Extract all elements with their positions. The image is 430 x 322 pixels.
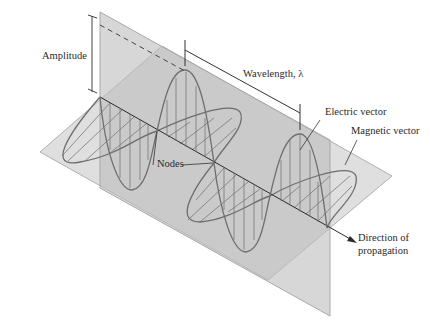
- direction-label-line1: Direction of: [358, 232, 409, 244]
- wavelength-label: Wavelength, λ: [243, 68, 303, 80]
- magnetic-vector-label: Magnetic vector: [351, 125, 420, 137]
- electric-plane: [100, 12, 330, 316]
- propagation-arrowhead: [347, 236, 357, 243]
- electric-vector-label: Electric vector: [325, 106, 387, 118]
- nodes-label: Nodes: [157, 158, 184, 170]
- amplitude-label: Amplitude: [42, 50, 87, 62]
- em-wave-diagram: [0, 0, 430, 322]
- direction-label-line2: propagation: [358, 245, 408, 257]
